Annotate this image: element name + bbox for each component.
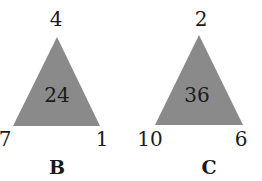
triangle-c-right-number: 6 xyxy=(235,129,248,149)
triangles-canvas xyxy=(0,0,262,181)
triangle-c-label: C xyxy=(201,157,216,177)
triangle-c-left-number: 10 xyxy=(137,129,162,149)
triangle-c xyxy=(155,35,243,125)
triangle-c-top-number: 2 xyxy=(195,9,208,29)
triangle-b-left-number: 7 xyxy=(0,129,11,149)
triangle-b-center-number: 24 xyxy=(44,85,69,105)
triangle-b-right-number: 1 xyxy=(96,129,109,149)
triangle-b xyxy=(13,37,100,126)
triangle-b-label: B xyxy=(49,157,65,177)
triangle-c-center-number: 36 xyxy=(184,85,209,105)
triangle-b-top-number: 4 xyxy=(50,9,63,29)
